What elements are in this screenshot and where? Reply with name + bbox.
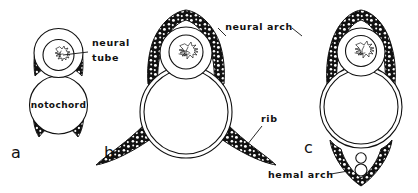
rib-leader bbox=[247, 126, 262, 145]
diagram-canvas: notochord a neural tube bbox=[0, 0, 418, 193]
hemal-arch-label: hemal arch bbox=[268, 169, 334, 180]
rib-label: rib bbox=[261, 113, 278, 124]
neural-arch-label: neural arch bbox=[225, 21, 293, 32]
neural-tube-callout: neural tube bbox=[92, 37, 130, 63]
neural-tube-label-line1: neural bbox=[92, 37, 130, 48]
hemal-arch-callout: hemal arch bbox=[268, 169, 348, 180]
rib-callout: rib bbox=[247, 113, 278, 145]
panel-c-hemal-vessel-lower bbox=[355, 164, 367, 176]
panel-letter-c: c bbox=[304, 138, 313, 157]
panel-a: notochord a bbox=[11, 29, 88, 163]
neural-arch-callout: neural arch bbox=[218, 21, 302, 36]
panel-c-hemal-vessel-upper bbox=[356, 153, 366, 163]
panel-b-centrum-inner bbox=[144, 70, 228, 154]
panel-c-centrum-inner bbox=[324, 70, 398, 144]
neural-tube-label-line2: tube bbox=[92, 52, 119, 63]
vertebra-comparison-figure: notochord a neural tube bbox=[0, 0, 418, 193]
panel-c: c bbox=[304, 10, 402, 186]
neural-arch-leader-right bbox=[292, 28, 302, 36]
panel-letter-a: a bbox=[11, 143, 21, 162]
notochord-label: notochord bbox=[31, 100, 86, 110]
panel-letter-b: b bbox=[104, 143, 114, 162]
